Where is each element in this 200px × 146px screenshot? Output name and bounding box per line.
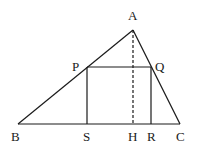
segment-AC [133, 30, 180, 124]
label-A: A [128, 8, 138, 23]
label-Q: Q [155, 59, 165, 74]
label-C: C [176, 129, 185, 144]
label-H: H [128, 129, 137, 144]
geometry-diagram: A P Q B S H R C [0, 0, 200, 146]
segment-AB [18, 30, 133, 124]
label-S: S [83, 129, 90, 144]
label-B: B [11, 129, 20, 144]
label-R: R [147, 129, 156, 144]
label-P: P [72, 59, 79, 74]
